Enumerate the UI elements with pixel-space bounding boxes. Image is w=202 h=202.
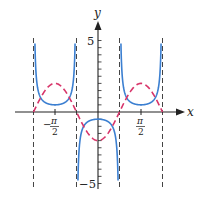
y-axis-arrow-icon — [95, 21, 102, 30]
denominator: 2 — [138, 127, 144, 137]
y-axis-label: y — [93, 6, 101, 20]
y-tick-label-5: 5 — [87, 34, 94, 48]
blue-secant-branch — [35, 44, 75, 105]
chart-plot: y x 5 −5 − π 2 π 2 — [0, 0, 202, 202]
x-axis-label: x — [187, 105, 194, 119]
pi-numerator: π — [136, 116, 144, 126]
x-axis-arrow-icon — [176, 109, 185, 116]
denominator: 2 — [52, 127, 58, 137]
x-tick-label-neg-pi-half: − π 2 — [43, 116, 59, 137]
y-tick-label-neg5: −5 — [79, 177, 96, 191]
pi-numerator: π — [50, 116, 58, 126]
x-tick-label-pi-half: π 2 — [136, 116, 145, 137]
